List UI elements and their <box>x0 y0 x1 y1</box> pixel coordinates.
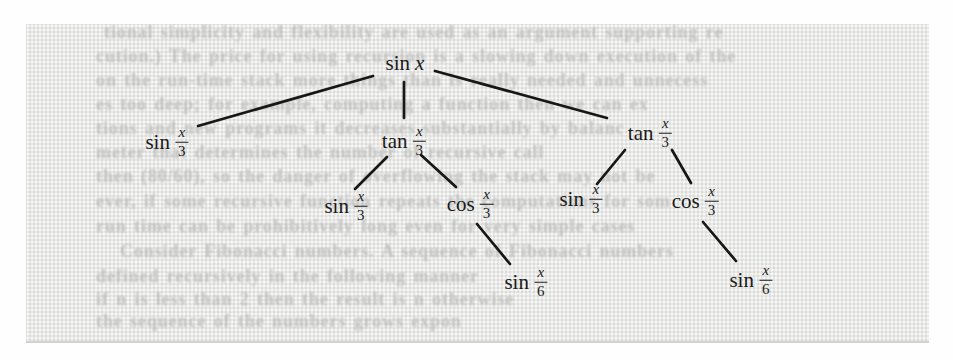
fraction-numerator: x <box>480 187 494 205</box>
argument-fraction: x6 <box>759 263 773 298</box>
argument-variable: x <box>415 53 426 74</box>
function-name: sin <box>729 270 754 291</box>
fraction-denominator: 3 <box>662 135 670 151</box>
tree-node-n3-tan: tanx3 <box>628 116 672 151</box>
function-name: cos <box>447 194 475 215</box>
tree-node-n1-sin: sinx3 <box>145 125 188 160</box>
argument-fraction: x3 <box>705 184 719 219</box>
fraction-numerator: x <box>589 182 603 200</box>
scanned-page: tional simplicity and flexibility are us… <box>0 0 953 360</box>
function-name: sin <box>386 53 411 74</box>
tree-node-n7-cos: cosx3 <box>672 184 719 219</box>
fraction-numerator: x <box>658 116 672 134</box>
argument-fraction: x3 <box>175 125 189 160</box>
fraction-numerator: x <box>354 189 368 207</box>
argument-fraction: x3 <box>658 116 672 151</box>
fraction-denominator: 3 <box>416 143 424 159</box>
tree-node-n5-cos: cosx3 <box>447 187 494 222</box>
function-name: sin <box>324 196 349 217</box>
fraction-numerator: x <box>534 265 548 283</box>
function-name: tan <box>628 123 654 144</box>
tree-node-n4-sin: sinx3 <box>324 189 367 224</box>
argument-fraction: x3 <box>480 187 494 222</box>
fraction-denominator: 3 <box>357 208 365 224</box>
fraction-denominator: 6 <box>537 284 545 300</box>
tree-nodes-layer: sinxsinx3tanx3tanx3sinx3cosx3sinx3cosx3s… <box>0 0 953 360</box>
function-name: sin <box>145 132 170 153</box>
tree-node-n9-sin: sinx6 <box>729 263 772 298</box>
argument-fraction: x3 <box>354 189 368 224</box>
function-name: cos <box>672 191 700 212</box>
fraction-numerator: x <box>412 124 426 142</box>
tree-node-n8-sin: sinx6 <box>504 265 547 300</box>
function-name: sin <box>504 272 529 293</box>
fraction-denominator: 3 <box>178 144 186 160</box>
tree-node-n6-sin: sinx3 <box>559 182 602 217</box>
fraction-denominator: 3 <box>592 201 600 217</box>
fraction-numerator: x <box>705 184 719 202</box>
function-name: sin <box>559 189 584 210</box>
argument-fraction: x3 <box>589 182 603 217</box>
fraction-denominator: 3 <box>483 206 491 222</box>
fraction-denominator: 6 <box>762 282 770 298</box>
fraction-denominator: 3 <box>708 203 716 219</box>
tree-node-root-sin: sinx <box>386 53 427 74</box>
function-name: tan <box>382 131 408 152</box>
fraction-numerator: x <box>759 263 773 281</box>
tree-node-n2-tan: tanx3 <box>382 124 426 159</box>
fraction-numerator: x <box>175 125 189 143</box>
argument-fraction: x3 <box>412 124 426 159</box>
argument-fraction: x6 <box>534 265 548 300</box>
